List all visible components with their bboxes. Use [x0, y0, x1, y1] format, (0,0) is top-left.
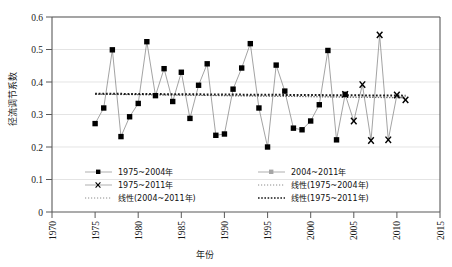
x-tick-label: 2005 — [349, 221, 359, 240]
data-point-square — [248, 41, 253, 46]
y-tick-label: 0.1 — [31, 175, 43, 185]
data-point-square — [153, 93, 158, 98]
x-axis-ticks — [52, 212, 440, 218]
data-point-square — [282, 88, 287, 93]
data-point-square — [179, 70, 184, 75]
data-point-square — [325, 48, 330, 53]
legend-label: 线性(1975~2011年) — [291, 193, 369, 203]
data-point-square — [92, 121, 97, 126]
data-point-square — [110, 47, 115, 52]
data-point-square — [118, 134, 123, 139]
data-point-square — [308, 118, 313, 123]
data-point-square — [299, 127, 304, 132]
y-axis-title: 径流调节系数 — [6, 59, 19, 139]
x-tick-label: 1995 — [263, 221, 273, 240]
data-point-square — [127, 114, 132, 119]
y-tick-label: 0.4 — [31, 78, 43, 88]
legend-label: 线性(2004~2011年) — [118, 193, 196, 203]
data-point-square — [230, 86, 235, 91]
y-tick-label: 0.5 — [31, 45, 43, 55]
data-point-square — [144, 39, 149, 44]
data-point-square — [256, 105, 261, 110]
x-axis-tick-labels: 1970 1975 1980 1985 1990 1995 2000 2005 … — [48, 221, 446, 240]
x-tick-label: 1975 — [91, 221, 101, 240]
data-point-square — [317, 102, 322, 107]
runoff-regulation-coefficient-chart: 0.6 0.5 0.4 0.3 0.2 0.1 0 1970 1975 1980 — [0, 0, 452, 267]
data-point-square — [170, 99, 175, 104]
chart-container: 0.6 0.5 0.4 0.3 0.2 0.1 0 1970 1975 1980 — [0, 0, 452, 267]
legend-label: 2004~2011年 — [291, 167, 346, 177]
x-tick-label: 1990 — [220, 221, 230, 240]
data-point-square — [239, 65, 244, 70]
y-axis-ticks — [46, 17, 52, 212]
x-tick-label: 2010 — [392, 221, 402, 240]
filled-square-icon — [96, 170, 100, 174]
data-point-square — [196, 83, 201, 88]
filled-square-icon — [269, 170, 273, 174]
data-point-square — [187, 116, 192, 121]
data-point-square — [222, 131, 227, 136]
data-point-square — [291, 125, 296, 130]
y-tick-label: 0 — [38, 208, 43, 218]
x-axis-title: 年份 — [196, 248, 214, 261]
legend-label: 1975~2004年 — [118, 167, 173, 177]
x-tick-label: 1985 — [177, 221, 187, 240]
y-axis-tick-labels: 0.6 0.5 0.4 0.3 0.2 0.1 0 — [31, 13, 43, 218]
x-tick-label: 2015 — [436, 221, 446, 240]
data-point-square — [205, 61, 210, 66]
legend-label: 1975~2011年 — [118, 180, 173, 190]
data-point-square — [334, 137, 339, 142]
y-tick-label: 0.6 — [31, 13, 43, 23]
data-point-square — [136, 101, 141, 106]
data-point-square — [101, 105, 106, 110]
x-tick-label: 1980 — [134, 221, 144, 240]
x-tick-label: 2000 — [306, 221, 316, 240]
data-point-square — [161, 66, 166, 71]
x-tick-label: 1970 — [48, 221, 58, 240]
data-point-square — [213, 133, 218, 138]
y-tick-label: 0.3 — [31, 110, 43, 120]
data-point-square — [265, 144, 270, 149]
legend-label: 线性(1975~2004年) — [291, 180, 369, 190]
y-tick-label: 0.2 — [31, 143, 43, 153]
data-point-square — [273, 62, 278, 67]
